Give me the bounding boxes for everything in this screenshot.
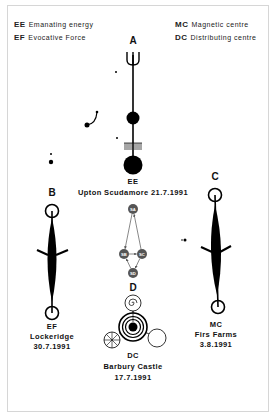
flow-diagram: SASBSCSD	[119, 204, 147, 278]
formation-d-date: 17.7.1991	[115, 373, 152, 383]
formation-c-pictogram	[201, 189, 231, 314]
flow-edge-sa-sb	[125, 214, 132, 249]
formation-d-letter: D	[129, 282, 136, 293]
dot	[184, 239, 187, 242]
formation-a-type: EE	[128, 177, 139, 187]
formation-d-place: Barbury Castle	[104, 362, 163, 372]
a-dot	[115, 71, 117, 73]
flow-node-label: SA	[130, 207, 136, 212]
formation-d-pictogram	[104, 295, 166, 348]
formation-a-pictogram	[85, 52, 143, 175]
a-circle-bottom	[124, 156, 143, 175]
formation-b-date: 30.7.1991	[34, 342, 71, 352]
formation-c-place: Firs Farms	[195, 330, 237, 340]
spiral-icon	[129, 299, 137, 306]
formation-c-date: 3.8.1991	[200, 340, 232, 350]
formation-b-letter: B	[48, 187, 55, 198]
formation-b-type: EF	[47, 322, 57, 332]
flow-edge-sd-sb	[126, 259, 131, 269]
flow-node-label: SB	[121, 252, 127, 257]
formation-b-place: Lockeridge	[30, 332, 74, 342]
a-circle-mid	[127, 112, 140, 125]
dot	[50, 153, 52, 155]
formation-c-type: MC	[210, 320, 222, 330]
flow-edge-sc-sd	[135, 259, 140, 269]
formation-a-letter: A	[129, 35, 136, 46]
formation-c-letter: C	[211, 171, 218, 182]
flow-node-label: SC	[139, 252, 145, 257]
dot	[181, 239, 183, 241]
formation-d-type: DC	[127, 351, 139, 361]
formation-b-pictogram	[37, 205, 68, 320]
dot	[49, 160, 53, 164]
flow-edge-sc-sa	[134, 214, 141, 249]
flow-node-label: SD	[130, 271, 136, 276]
formation-a-place: Upton Scudamore 21.7.1991	[78, 188, 188, 198]
